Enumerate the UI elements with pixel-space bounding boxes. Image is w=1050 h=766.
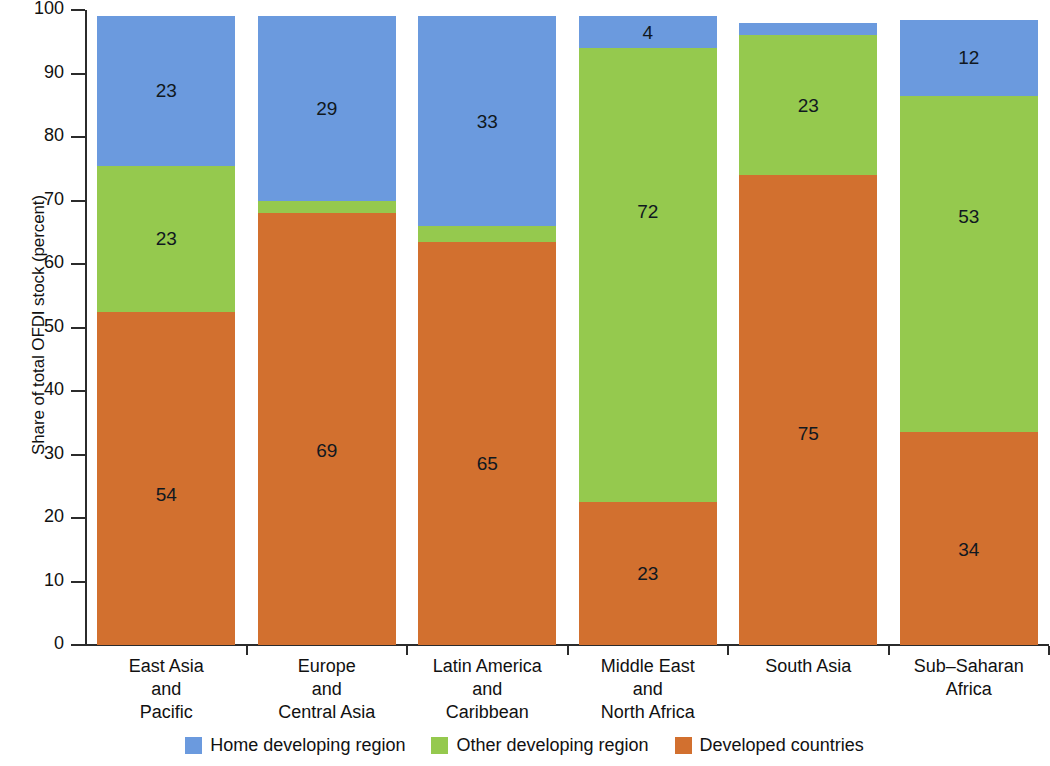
bar-segment-value: 53: [958, 207, 979, 226]
bar-2: 6929: [258, 10, 396, 645]
bar-segment-value: 23: [637, 564, 658, 583]
bar-segment-value: 33: [477, 112, 498, 131]
bar-segment: 69: [258, 213, 396, 645]
bar-1: 542323: [97, 10, 235, 645]
y-axis-tick: [71, 454, 85, 456]
x-axis-category-label: Sub–SaharanAfrica: [889, 655, 1050, 701]
legend-label: Other developing region: [456, 735, 648, 756]
bar-segment: 53: [900, 96, 1038, 433]
bar-segment-value: 34: [958, 540, 979, 559]
category-label-line: Pacific: [86, 701, 247, 724]
y-axis-tick-label: 10: [0, 570, 64, 591]
category-label-line: and: [247, 678, 408, 701]
y-axis-tick-label: 50: [0, 316, 64, 337]
y-axis-tick-label: 100: [0, 0, 64, 19]
bar-segment-value: 4: [642, 23, 653, 42]
y-axis-tick-label: 20: [0, 506, 64, 527]
y-axis-tick: [71, 581, 85, 583]
chart-legend: Home developing regionOther developing r…: [0, 735, 1049, 756]
bar-segment: [418, 226, 556, 242]
bar-segment: 23: [97, 166, 235, 312]
y-axis-tick-label: 0: [0, 633, 64, 654]
category-label-line: South Asia: [728, 655, 889, 678]
category-label-line: Sub–Saharan: [889, 655, 1050, 678]
bar-segment-value: 12: [958, 48, 979, 67]
y-axis-tick: [71, 327, 85, 329]
bar-segment-value: 69: [316, 441, 337, 460]
bar-segment: [739, 23, 877, 36]
plot-area: 54232369296533237247523345312: [86, 10, 1049, 645]
y-axis-tick: [71, 390, 85, 392]
x-axis-category-label: EuropeandCentral Asia: [247, 655, 408, 724]
y-axis-tick-label: 90: [0, 62, 64, 83]
bar-segment-value: 23: [156, 81, 177, 100]
bar-4: 23724: [579, 10, 717, 645]
bar-segment-value: 75: [798, 424, 819, 443]
y-axis-tick-label: 60: [0, 252, 64, 273]
category-label-line: Europe: [247, 655, 408, 678]
category-label-line: Caribbean: [407, 701, 568, 724]
y-axis-tick-label: 30: [0, 443, 64, 464]
x-axis-tick: [888, 646, 890, 655]
bar-segment: 34: [900, 432, 1038, 645]
category-label-line: Central Asia: [247, 701, 408, 724]
x-axis-category-label: Latin AmericaandCaribbean: [407, 655, 568, 724]
bar-segment: 33: [418, 16, 556, 226]
bar-segment: 23: [579, 502, 717, 645]
legend-label: Developed countries: [700, 735, 864, 756]
bar-6: 345312: [900, 10, 1038, 645]
bar-segment: 65: [418, 242, 556, 645]
y-axis-tick: [71, 517, 85, 519]
category-label-line: East Asia: [86, 655, 247, 678]
x-axis-category-label: Middle EastandNorth Africa: [568, 655, 729, 724]
category-label-line: Middle East: [568, 655, 729, 678]
y-axis-tick: [71, 73, 85, 75]
y-axis-tick: [71, 644, 85, 646]
y-axis-tick: [71, 200, 85, 202]
legend-label: Home developing region: [210, 735, 405, 756]
bar-segment-value: 23: [798, 96, 819, 115]
bar-3: 6533: [418, 10, 556, 645]
bar-segment-value: 72: [637, 202, 658, 221]
x-axis-tick: [246, 646, 248, 655]
bar-segment-value: 23: [156, 229, 177, 248]
bar-segment: 23: [97, 16, 235, 165]
legend-swatch-icon: [675, 737, 692, 754]
legend-item[interactable]: Developed countries: [675, 735, 864, 756]
y-axis-tick-label: 40: [0, 379, 64, 400]
bar-segment-value: 65: [477, 454, 498, 473]
bar-5: 7523: [739, 10, 877, 645]
x-axis-tick: [727, 646, 729, 655]
bar-segment: 23: [739, 35, 877, 175]
bar-segment: 72: [579, 48, 717, 502]
x-axis-category-label: South Asia: [728, 655, 889, 678]
bar-segment-value: 29: [316, 99, 337, 118]
legend-swatch-icon: [185, 737, 202, 754]
y-axis-tick: [71, 263, 85, 265]
bar-segment: 75: [739, 175, 877, 645]
legend-item[interactable]: Home developing region: [185, 735, 405, 756]
bar-segment: 54: [97, 312, 235, 645]
x-axis-tick: [406, 646, 408, 655]
x-axis-tick: [567, 646, 569, 655]
y-axis-tick-label: 70: [0, 189, 64, 210]
legend-swatch-icon: [431, 737, 448, 754]
legend-item[interactable]: Other developing region: [431, 735, 648, 756]
bar-segment: 12: [900, 20, 1038, 96]
category-label-line: Africa: [889, 678, 1050, 701]
category-label-line: North Africa: [568, 701, 729, 724]
category-label-line: Latin America: [407, 655, 568, 678]
bar-segment: 4: [579, 16, 717, 48]
y-axis-tick-label: 80: [0, 125, 64, 146]
category-label-line: and: [568, 678, 729, 701]
category-label-line: and: [86, 678, 247, 701]
y-axis-tick: [71, 9, 85, 11]
bar-segment: 29: [258, 16, 396, 200]
x-axis-category-label: East AsiaandPacific: [86, 655, 247, 724]
bar-segment-value: 54: [156, 485, 177, 504]
y-axis-tick: [71, 136, 85, 138]
bar-segment: [258, 201, 396, 214]
category-label-line: and: [407, 678, 568, 701]
